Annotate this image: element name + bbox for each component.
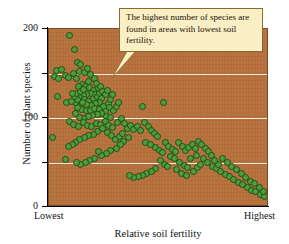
data-point	[49, 134, 56, 141]
data-point	[66, 32, 73, 39]
data-point	[69, 90, 76, 97]
data-point	[260, 188, 267, 195]
x-axis-line	[47, 206, 269, 207]
annotation-callout: The highest number of species are found …	[119, 8, 263, 52]
y-tick-200	[42, 28, 48, 29]
data-point	[154, 133, 161, 140]
data-point	[187, 155, 194, 162]
data-point	[71, 46, 78, 53]
y-tick-150	[42, 73, 48, 74]
y-tick-0	[42, 206, 48, 207]
data-point	[68, 98, 75, 105]
scatter-plot-figure: 0100200 Number of plant species Lowest H…	[0, 0, 289, 244]
x-axis-label-highest: Highest	[244, 210, 275, 221]
data-point	[211, 157, 218, 164]
data-point	[65, 143, 72, 150]
y-tick-50	[42, 162, 48, 163]
data-point	[109, 91, 116, 98]
x-axis-title: Relative soil fertility	[48, 228, 268, 239]
data-point	[197, 161, 204, 168]
data-point	[139, 103, 146, 110]
data-point	[54, 93, 61, 100]
data-point	[160, 99, 167, 106]
data-point	[65, 74, 72, 81]
data-point	[55, 75, 62, 82]
data-point	[164, 163, 171, 170]
data-point	[73, 159, 80, 166]
data-point	[183, 172, 190, 179]
y-tick-label-200: 200	[23, 23, 38, 33]
data-point	[137, 127, 144, 134]
x-axis-label-lowest: Lowest	[34, 210, 63, 221]
y-tick-100	[42, 117, 48, 118]
data-point	[115, 99, 122, 106]
plot-area	[48, 28, 268, 206]
data-point	[159, 149, 166, 156]
y-axis-title: Number of plant species	[21, 39, 32, 189]
